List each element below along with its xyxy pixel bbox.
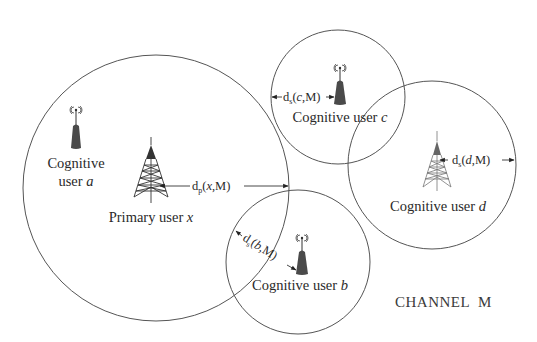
distance-label-ds-b: ds(b,M) xyxy=(239,231,280,265)
distance-label-ds-c: ds(c,M) xyxy=(283,90,321,106)
cognitive-user-b-label: Cognitive user b xyxy=(252,277,348,293)
distance-arrow-ds-b-right xyxy=(287,265,296,270)
channel-label: CHANNEL M xyxy=(395,294,492,310)
cognitive-user-d-label: Cognitive user d xyxy=(390,198,487,214)
distance-arrow-ds-b-left xyxy=(236,231,242,236)
distance-label-dp-x: dp(x,M) xyxy=(192,179,230,195)
cognitive-user-a-label-line2: user a xyxy=(58,173,93,189)
transmission-tower-icon xyxy=(423,131,451,191)
cognitive-user-a-label-line1: Cognitive xyxy=(47,155,104,171)
wireless-device-icon xyxy=(296,234,308,275)
distance-label-ds-d: ds(d,M) xyxy=(452,153,490,169)
wireless-device-icon xyxy=(334,64,346,105)
cognitive-user-c-label: Cognitive user c xyxy=(292,109,388,125)
wireless-device-icon xyxy=(70,106,82,149)
primary-user-x-label: Primary user x xyxy=(109,209,194,225)
transmission-tower-icon xyxy=(134,137,168,203)
coverage-circle-cognitive-d xyxy=(348,81,516,249)
cognitive-radio-diagram: Cognitive user a Primary user x dp(x,M) … xyxy=(0,0,537,342)
